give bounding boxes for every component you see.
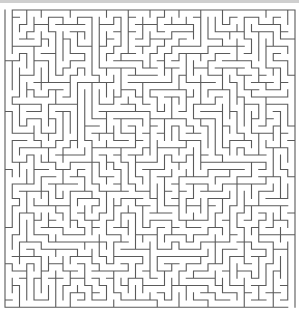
maze-grid[interactable] (0, 0, 299, 319)
maze-walls (5, 10, 295, 307)
maze-board[interactable] (0, 0, 299, 319)
